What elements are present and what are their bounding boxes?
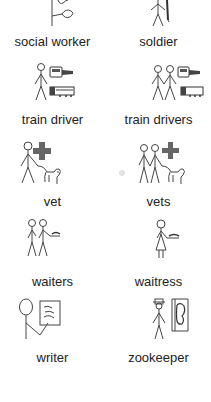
label-social-worker: social worker — [0, 34, 105, 49]
zookeeper-icon[interactable] — [152, 297, 198, 343]
label-vet: vet — [0, 194, 105, 209]
train-driver-icon[interactable] — [33, 60, 79, 106]
soldier-icon[interactable] — [145, 0, 177, 28]
vets-icon[interactable] — [138, 139, 188, 187]
label-waitress: waitress — [106, 274, 211, 289]
waiters-icon[interactable] — [26, 218, 66, 262]
social-worker-icon[interactable] — [45, 0, 85, 28]
waitress-icon[interactable] — [155, 218, 191, 262]
label-vets: vets — [106, 194, 211, 209]
writer-icon[interactable] — [18, 297, 64, 343]
train-drivers-icon[interactable] — [150, 60, 206, 106]
label-writer: writer — [0, 350, 105, 365]
label-zookeeper: zookeeper — [106, 350, 211, 365]
label-soldier: soldier — [106, 34, 211, 49]
vet-icon[interactable] — [16, 139, 66, 187]
label-waiters: waiters — [0, 274, 105, 289]
label-train-driver: train driver — [0, 112, 105, 127]
decorative-dot — [119, 170, 125, 176]
label-train-drivers: train drivers — [106, 112, 211, 127]
